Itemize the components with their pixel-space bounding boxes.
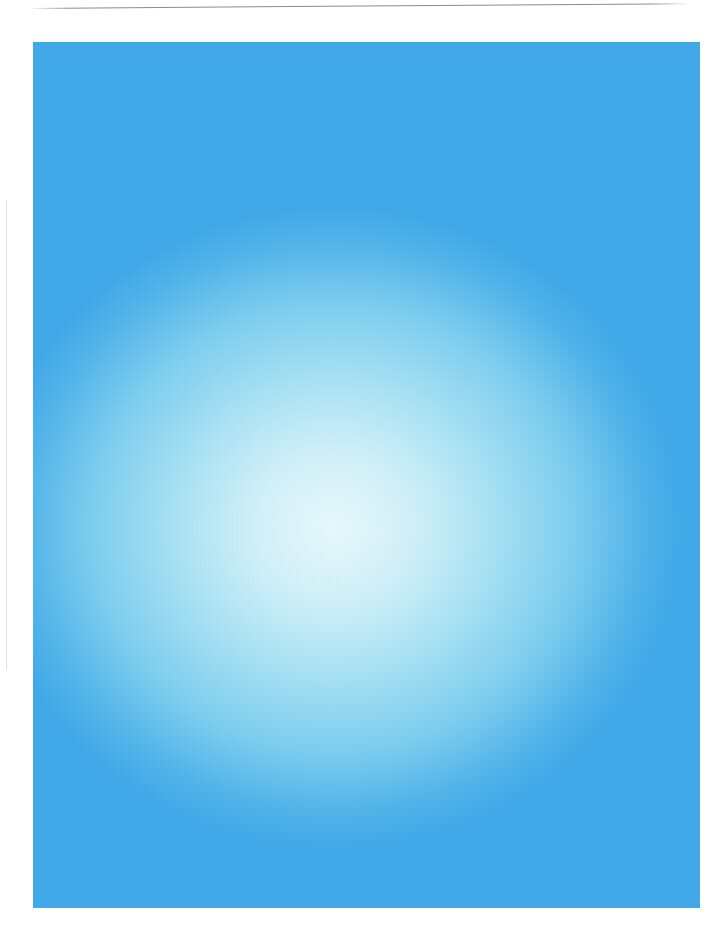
map-panel[interactable] — [33, 42, 700, 908]
map-last[interactable] — [33, 42, 700, 908]
scan-artifact-side-rule — [6, 200, 7, 670]
scan-artifact-top-rule — [30, 3, 690, 9]
last-map-geometry — [33, 42, 700, 908]
